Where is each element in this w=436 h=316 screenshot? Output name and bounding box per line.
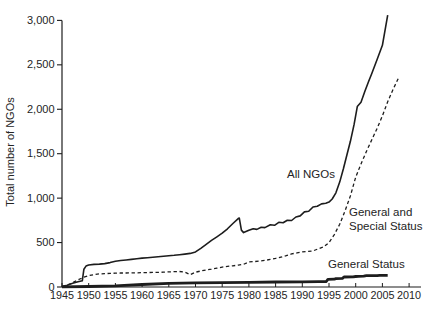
x-tick-label: 1990 bbox=[290, 289, 314, 301]
annotation-general-status: General Status bbox=[328, 258, 405, 270]
x-tick-label: 1945 bbox=[50, 289, 74, 301]
y-tick-label: 3,000 bbox=[27, 14, 55, 26]
ngo-growth-figure: 05001,0001,5002,0002,5003,00019451950195… bbox=[0, 0, 436, 316]
x-tick-label: 1975 bbox=[210, 289, 234, 301]
x-tick-label: 1950 bbox=[77, 289, 101, 301]
y-tick-label: 2,000 bbox=[27, 103, 55, 115]
annotation-special-status: Special Status bbox=[349, 220, 423, 232]
x-tick-label: 1970 bbox=[183, 289, 207, 301]
x-tick-label: 1965 bbox=[157, 289, 181, 301]
y-tick-label: 500 bbox=[36, 236, 54, 248]
x-tick-label: 2005 bbox=[370, 289, 394, 301]
series-line-general-and-special-status bbox=[62, 78, 398, 287]
series-line-all-ngos bbox=[62, 15, 388, 287]
x-tick-label: 1985 bbox=[264, 289, 288, 301]
y-axis-title: Total number of NGOs bbox=[4, 97, 16, 207]
x-tick-label: 2010 bbox=[397, 289, 421, 301]
x-tick-label: 2000 bbox=[344, 289, 368, 301]
annotation-all-ngos: All NGOs bbox=[287, 168, 335, 180]
x-tick-label: 1960 bbox=[130, 289, 154, 301]
y-tick-label: 1,500 bbox=[27, 147, 55, 159]
x-tick-label: 1980 bbox=[237, 289, 261, 301]
x-tick-label: 1955 bbox=[103, 289, 127, 301]
ngo-line-chart: 05001,0001,5002,0002,5003,00019451950195… bbox=[0, 0, 436, 316]
x-tick-label: 1995 bbox=[317, 289, 341, 301]
y-tick-label: 2,500 bbox=[27, 58, 55, 70]
series-line-general-status bbox=[62, 275, 388, 287]
y-tick-label: 1,000 bbox=[27, 192, 55, 204]
annotation-general-and: General and bbox=[349, 206, 412, 218]
